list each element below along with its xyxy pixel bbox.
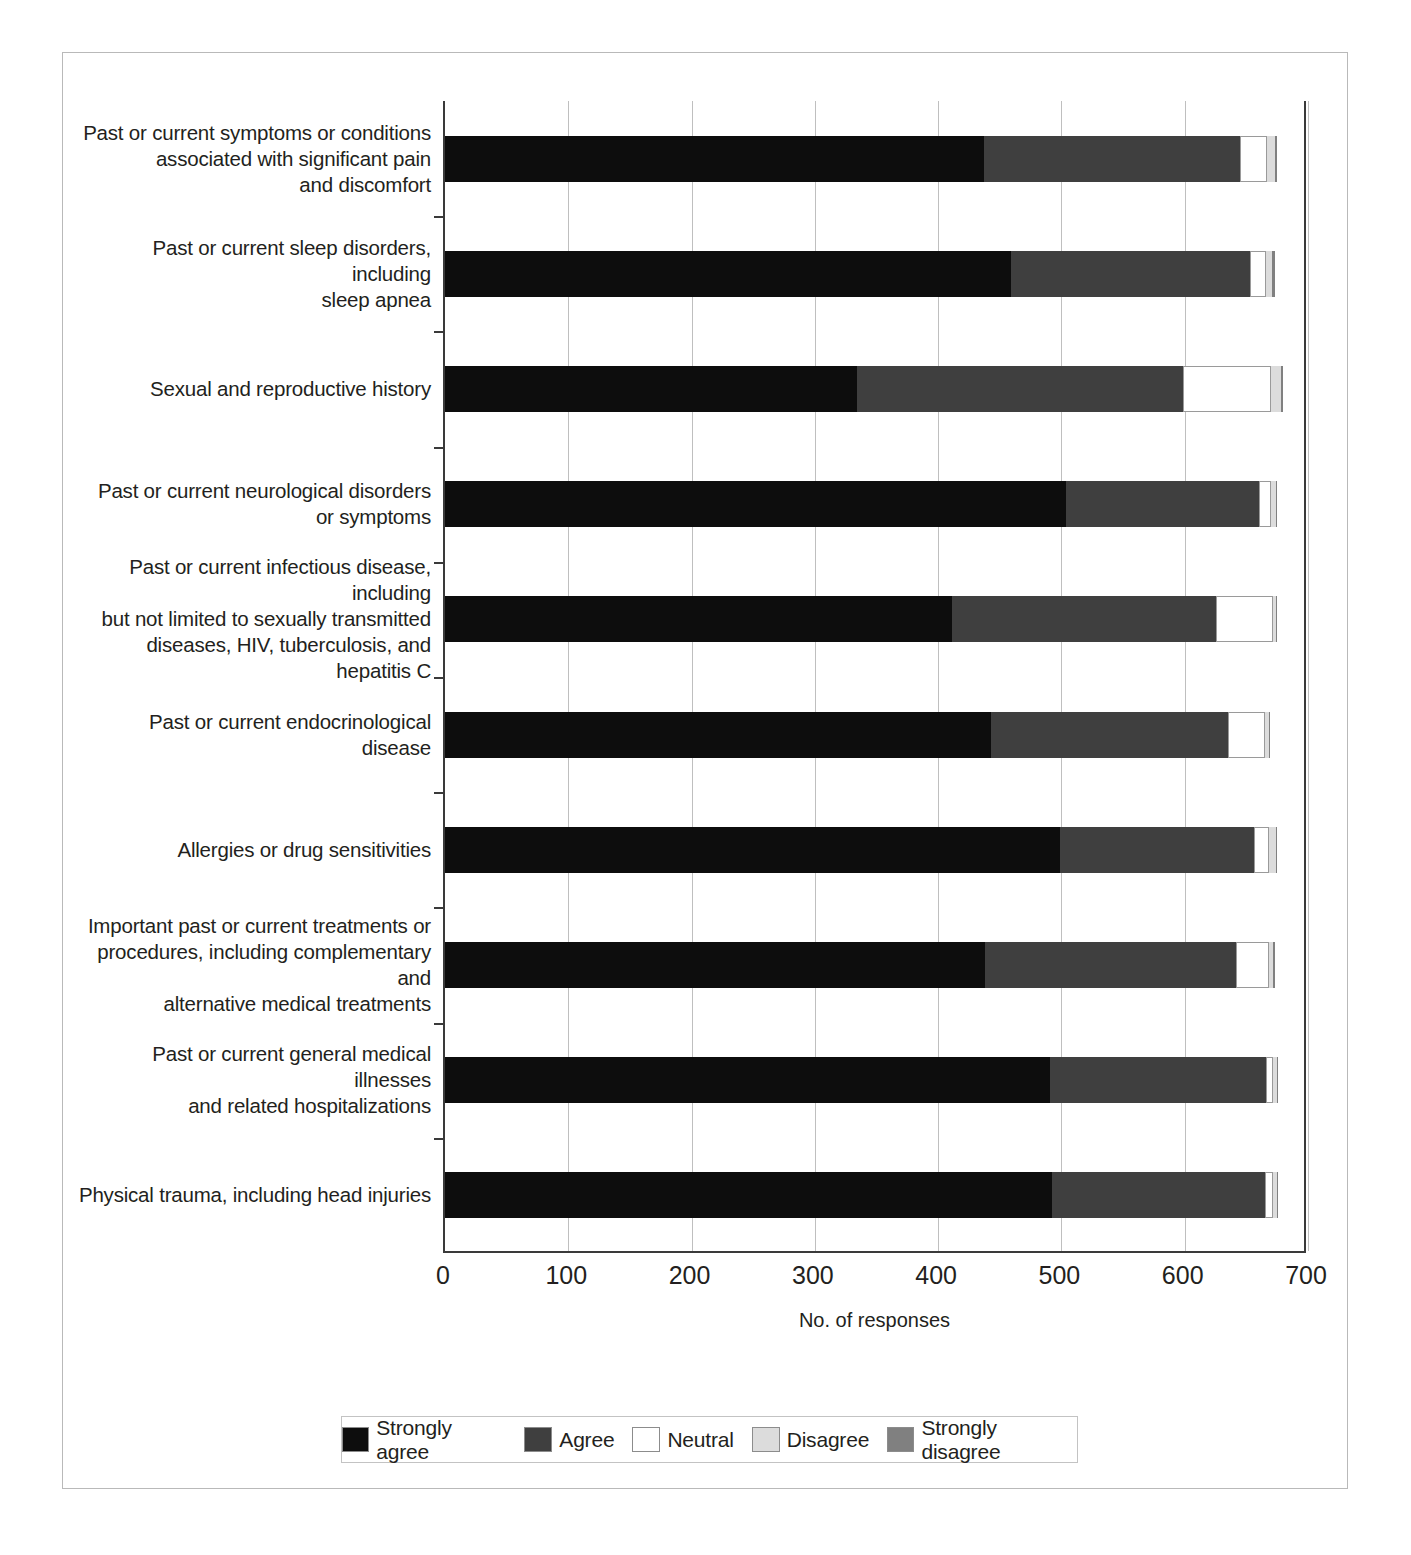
category-label-line: Past or current symptoms or conditions bbox=[77, 120, 431, 146]
bar-segment-neutral bbox=[1228, 712, 1265, 758]
category-label-line: alternative medical treatments bbox=[77, 991, 431, 1017]
category-tick bbox=[434, 331, 445, 333]
bar-segment-strongly-disagree bbox=[1276, 827, 1277, 873]
bar-segment-strongly-agree bbox=[445, 712, 991, 758]
bar-segment-disagree bbox=[1271, 366, 1281, 412]
chart-row: Allergies or drug sensitivities bbox=[445, 827, 1304, 873]
bar-segment-strongly-disagree bbox=[1269, 712, 1270, 758]
category-label: Past or current neurological disordersor… bbox=[77, 478, 445, 530]
chart-row: Past or current symptoms or conditionsas… bbox=[445, 136, 1304, 182]
legend-swatch-icon bbox=[342, 1427, 369, 1452]
legend: Strongly agreeAgreeNeutralDisagreeStrong… bbox=[341, 1416, 1078, 1463]
legend-item[interactable]: Strongly agree bbox=[342, 1416, 506, 1464]
bar-segment-neutral bbox=[1266, 1057, 1273, 1103]
legend-item[interactable]: Agree bbox=[524, 1427, 614, 1452]
category-label: Physical trauma, including head injuries bbox=[77, 1182, 445, 1208]
bar-segment-strongly-agree bbox=[445, 596, 952, 642]
bar-segment-agree bbox=[1066, 481, 1258, 527]
bar-segment-agree bbox=[857, 366, 1184, 412]
bar-segment-strongly-disagree bbox=[1276, 596, 1277, 642]
legend-item[interactable]: Neutral bbox=[632, 1427, 733, 1452]
bar-segment-neutral bbox=[1259, 481, 1271, 527]
legend-swatch-icon bbox=[752, 1427, 780, 1452]
category-tick bbox=[434, 216, 445, 218]
gridline-700 bbox=[1308, 101, 1309, 1251]
bar-segment-agree bbox=[984, 136, 1240, 182]
bar-segment-strongly-disagree bbox=[1277, 1172, 1278, 1218]
legend-label: Strongly disagree bbox=[921, 1416, 1077, 1464]
stacked-bar bbox=[445, 712, 1270, 758]
category-label-line: but not limited to sexually transmitted bbox=[77, 606, 431, 632]
category-label-line: Past or current general medical illnesse… bbox=[77, 1041, 431, 1093]
chart-row: Important past or current treatments orp… bbox=[445, 942, 1304, 988]
category-label-line: Physical trauma, including head injuries bbox=[77, 1182, 431, 1208]
bar-segment-strongly-agree bbox=[445, 251, 1011, 297]
legend-item[interactable]: Disagree bbox=[752, 1427, 869, 1452]
legend-swatch-icon bbox=[632, 1427, 660, 1452]
bar-segment-strongly-agree bbox=[445, 481, 1066, 527]
bar-segment-strongly-agree bbox=[445, 827, 1060, 873]
chart-row: Sexual and reproductive history bbox=[445, 366, 1304, 412]
category-label-line: procedures, including complementary and bbox=[77, 939, 431, 991]
bar-segment-strongly-agree bbox=[445, 366, 857, 412]
figure-page: Past or current symptoms or conditionsas… bbox=[0, 0, 1411, 1555]
bar-segment-agree bbox=[985, 942, 1237, 988]
x-tick-label: 300 bbox=[792, 1261, 834, 1290]
x-axis-title: No. of responses bbox=[443, 1309, 1306, 1332]
category-label: Sexual and reproductive history bbox=[77, 376, 445, 402]
bar-segment-neutral bbox=[1254, 827, 1269, 873]
legend-swatch-icon bbox=[887, 1427, 914, 1452]
bar-segment-strongly-agree bbox=[445, 942, 985, 988]
legend-item[interactable]: Strongly disagree bbox=[887, 1416, 1077, 1464]
x-tick-label: 100 bbox=[545, 1261, 587, 1290]
x-axis-ticks: 0100200300400500600700 bbox=[443, 1261, 1310, 1301]
bar-segment-strongly-agree bbox=[445, 1172, 1052, 1218]
category-label-line: Past or current neurological disorders bbox=[77, 478, 431, 504]
bar-segment-neutral bbox=[1216, 596, 1274, 642]
bar-segment-disagree bbox=[1269, 827, 1276, 873]
bar-segment-strongly-disagree bbox=[1277, 1057, 1278, 1103]
legend-label: Disagree bbox=[787, 1428, 869, 1452]
bar-segment-strongly-disagree bbox=[1276, 481, 1277, 527]
legend-label: Agree bbox=[559, 1428, 614, 1452]
category-tick bbox=[434, 1023, 445, 1025]
legend-label: Neutral bbox=[667, 1428, 733, 1452]
chart-row: Past or current endocrinological disease bbox=[445, 712, 1304, 758]
figure-frame: Past or current symptoms or conditionsas… bbox=[62, 52, 1348, 1489]
chart-row: Physical trauma, including head injuries bbox=[445, 1172, 1304, 1218]
legend-label: Strongly agree bbox=[376, 1416, 506, 1464]
x-tick-label: 200 bbox=[669, 1261, 711, 1290]
bar-segment-strongly-disagree bbox=[1272, 251, 1274, 297]
x-tick-label: 600 bbox=[1162, 1261, 1204, 1290]
chart-row: Past or current sleep disorders, includi… bbox=[445, 251, 1304, 297]
category-label: Past or current infectious disease, incl… bbox=[77, 554, 445, 684]
category-label: Past or current sleep disorders, includi… bbox=[77, 235, 445, 313]
category-tick bbox=[434, 907, 445, 909]
category-tick bbox=[434, 792, 445, 794]
stacked-bar bbox=[445, 136, 1277, 182]
category-tick bbox=[434, 562, 445, 564]
bar-segment-agree bbox=[1050, 1057, 1266, 1103]
category-label-line: Past or current infectious disease, incl… bbox=[77, 554, 431, 606]
bar-segment-strongly-disagree bbox=[1275, 136, 1277, 182]
bar-segment-agree bbox=[1060, 827, 1254, 873]
category-label-line: or symptoms bbox=[77, 504, 431, 530]
bar-segment-neutral bbox=[1236, 942, 1268, 988]
category-label-line: and related hospitalizations bbox=[77, 1093, 431, 1119]
stacked-bar bbox=[445, 251, 1275, 297]
x-tick-label: 0 bbox=[436, 1261, 450, 1290]
category-label-line: diseases, HIV, tuberculosis, and hepatit… bbox=[77, 632, 431, 684]
category-label-line: Allergies or drug sensitivities bbox=[77, 837, 431, 863]
stacked-bar bbox=[445, 481, 1277, 527]
category-label: Past or current endocrinological disease bbox=[77, 709, 445, 761]
stacked-bar bbox=[445, 1057, 1278, 1103]
plot-area: Past or current symptoms or conditionsas… bbox=[443, 101, 1306, 1253]
category-label: Past or current general medical illnesse… bbox=[77, 1041, 445, 1119]
bar-segment-disagree bbox=[1267, 136, 1274, 182]
bar-segment-strongly-disagree bbox=[1281, 366, 1283, 412]
category-tick bbox=[434, 447, 445, 449]
bar-segment-neutral bbox=[1183, 366, 1271, 412]
chart-row: Past or current general medical illnesse… bbox=[445, 1057, 1304, 1103]
category-label: Allergies or drug sensitivities bbox=[77, 837, 445, 863]
category-label-line: and discomfort bbox=[77, 172, 431, 198]
